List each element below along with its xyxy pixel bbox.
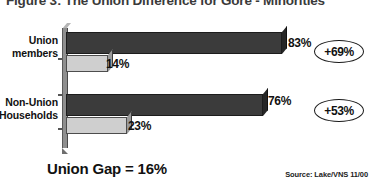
bar-side-face	[282, 26, 287, 54]
axis-tick	[58, 58, 62, 60]
bar-value-83: 83%	[288, 36, 311, 50]
bar-front-face	[66, 55, 108, 72]
bar-value-14: 14%	[106, 57, 129, 71]
badge-label: +69%	[324, 45, 353, 59]
union-gap-summary: Union Gap = 16%	[47, 160, 167, 177]
chart-container: Figure 3: The Union Difference for Gore …	[0, 0, 377, 189]
bar-front-face	[66, 94, 263, 116]
bar-union-members-light	[66, 55, 108, 72]
axis-tick	[58, 128, 62, 130]
chart-title: Figure 3: The Union Difference for Gore …	[6, 0, 377, 8]
bar-non-union-light	[66, 117, 127, 134]
axis-tick	[58, 94, 62, 96]
category-label-union-members: Union members	[0, 34, 58, 59]
category-label-line2: members	[0, 47, 58, 60]
bar-front-face	[66, 32, 282, 54]
axis-foot	[62, 148, 68, 154]
source-attribution: Source: Lake/VNS 11/00	[285, 170, 368, 179]
category-label-line2: Households	[0, 109, 58, 122]
bar-front-face	[66, 117, 127, 134]
bar-value-76: 76%	[268, 94, 291, 108]
badge-non-union-delta: +53%	[314, 99, 364, 122]
plot-area: Union members 83% 14% Non-Union Househol…	[0, 22, 377, 152]
category-label-line1: Union	[0, 34, 58, 47]
category-label-non-union-households: Non-Union Households	[0, 96, 58, 121]
badge-union-members-delta: +69%	[314, 40, 364, 63]
category-label-line1: Non-Union	[0, 96, 58, 109]
bar-union-members-dark	[66, 32, 282, 54]
bar-non-union-dark	[66, 94, 263, 116]
bar-value-23: 23%	[128, 119, 151, 133]
badge-label: +53%	[324, 104, 353, 118]
